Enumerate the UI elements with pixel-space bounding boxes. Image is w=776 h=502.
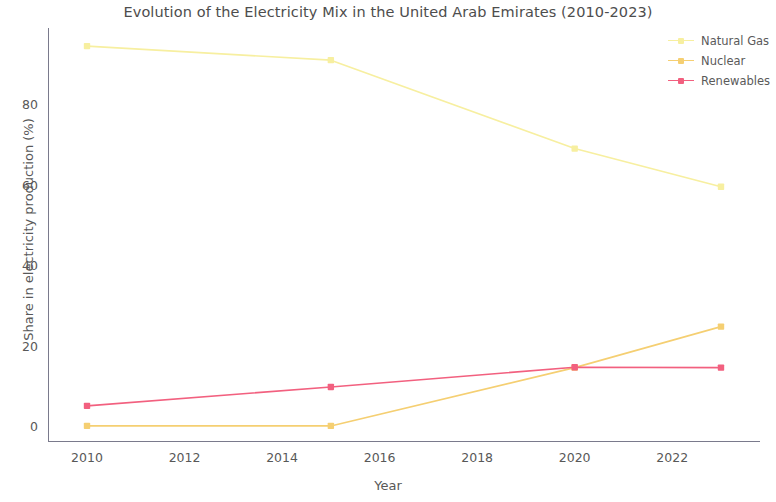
x-tick-label: 2010 [71,450,103,465]
axis-spines [48,28,760,442]
series-line-nuclear [87,327,721,426]
legend-label: Renewables [701,74,770,88]
legend-swatch-icon [668,75,694,87]
x-axis-label: Year [0,478,776,493]
data-point-marker [84,43,90,49]
data-point-marker [571,145,577,151]
x-tick-label: 2016 [364,450,396,465]
x-tick-label: 2022 [656,450,688,465]
data-point-marker [571,364,577,370]
legend-entry-nuclear[interactable]: Nuclear [668,53,770,68]
legend-label: Natural Gas [701,34,769,48]
plot-area: 020406080 2010201220142016201820202022 [48,28,760,442]
chart-title: Evolution of the Electricity Mix in the … [0,4,776,20]
legend-entry-natural-gas[interactable]: Natural Gas [668,33,770,48]
data-point-marker [718,364,724,370]
x-tick-label: 2020 [559,450,591,465]
x-tick-label: 2014 [266,450,298,465]
data-point-marker [328,423,334,429]
legend-marker-icon [678,58,684,64]
x-tick-label: 2018 [461,450,493,465]
series-line-renewables [87,367,721,406]
data-point-marker [328,384,334,390]
plot-svg [48,28,760,442]
legend-marker-icon [678,38,684,44]
data-point-marker [84,403,90,409]
data-point-marker [718,184,724,190]
y-axis-label: Share in electricity production (%) [21,30,36,430]
data-point-marker [718,323,724,329]
data-point-marker [84,423,90,429]
chart-figure: Evolution of the Electricity Mix in the … [0,0,776,502]
chart-legend: Natural GasNuclearRenewables [668,33,770,88]
series-line-natural-gas [87,46,721,187]
data-series-group [84,43,724,429]
legend-label: Nuclear [701,54,745,68]
legend-swatch-icon [668,35,694,47]
x-tick-label: 2012 [169,450,201,465]
data-point-marker [328,57,334,63]
legend-marker-icon [678,78,684,84]
legend-entry-renewables[interactable]: Renewables [668,73,770,88]
legend-swatch-icon [668,55,694,67]
